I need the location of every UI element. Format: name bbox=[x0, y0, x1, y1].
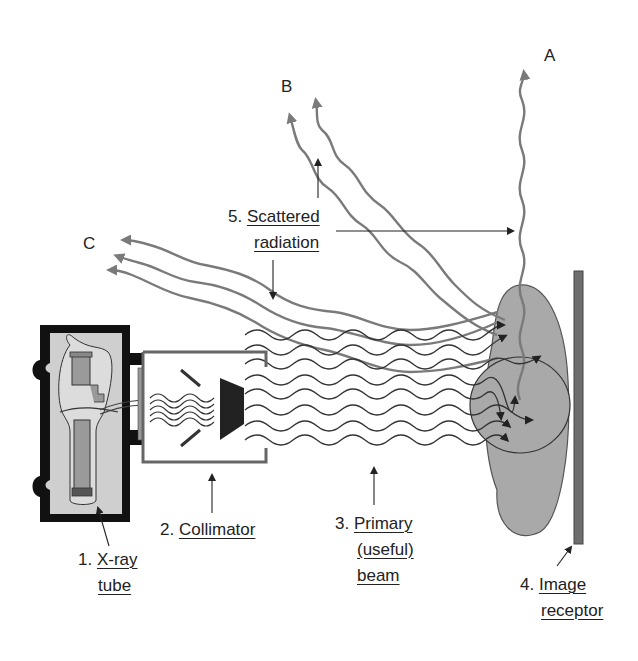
label-number: 5. bbox=[228, 207, 242, 226]
label-text: Image bbox=[539, 575, 586, 594]
label-xray-tube-line2: tube bbox=[98, 576, 131, 596]
label-text: Scattered bbox=[247, 207, 320, 226]
scatter-label-b: B bbox=[281, 77, 292, 97]
label-xray-tube: 1. X-ray bbox=[78, 550, 138, 570]
label-primary-beam: 3. Primary bbox=[335, 514, 412, 534]
collimator bbox=[143, 352, 266, 462]
label-number: 3. bbox=[335, 514, 349, 533]
label-collimator: 2. Collimator bbox=[160, 520, 255, 540]
label-text: Collimator bbox=[179, 520, 256, 539]
label-number: 1. bbox=[78, 550, 92, 569]
label-text: X-ray bbox=[97, 550, 138, 569]
label-primary-beam-line3: beam bbox=[357, 566, 400, 586]
xray-tube bbox=[33, 325, 143, 522]
label-image-receptor: 4. Image bbox=[520, 575, 586, 595]
image-receptor-plate bbox=[574, 271, 583, 544]
label-scattered-radiation-line2: radiation bbox=[254, 233, 319, 253]
xray-diagram: A B C 5. Scattered radiation 1. X-ray tu… bbox=[0, 0, 638, 661]
label-scattered-radiation: 5. Scattered bbox=[228, 207, 320, 227]
scatter-label-c: C bbox=[83, 234, 95, 254]
label-image-receptor-line2: receptor bbox=[541, 601, 603, 621]
label-primary-beam-line2: (useful) bbox=[357, 540, 414, 560]
scatter-label-a: A bbox=[544, 46, 555, 66]
label-text: Primary bbox=[354, 514, 413, 533]
label-number: 4. bbox=[520, 575, 534, 594]
label-number: 2. bbox=[160, 520, 174, 539]
